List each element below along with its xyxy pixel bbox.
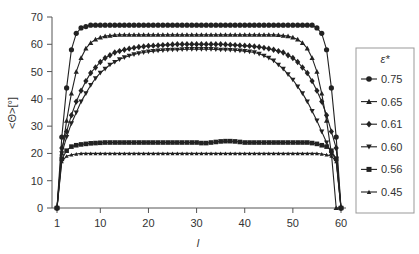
plot-area [54,23,343,212]
y-tick-label: 10 [31,175,43,187]
legend-label: 0.61 [381,118,402,130]
legend-label: 0.60 [381,141,402,153]
y-tick-label: 30 [31,120,43,132]
legend: ε*0.750.650.610.600.560.45 [356,48,414,213]
y-tick-label: 70 [31,11,43,23]
markers [54,47,343,211]
legend-label: 0.56 [381,163,402,175]
x-axis-title: l [197,237,200,249]
markers [54,41,343,211]
series-0.75 [54,23,343,211]
series-0.60 [54,47,343,211]
y-tick-label: 40 [31,93,43,105]
series-0.56 [55,139,344,210]
y-tick-label: 0 [37,202,43,214]
x-tick-label: 30 [190,217,202,229]
markers [54,32,343,210]
x-tick-label: 60 [335,217,347,229]
markers [55,151,343,209]
y-axis-title: <Θ>[°] [6,97,18,129]
x-tick-label: 10 [94,217,106,229]
series-0.61 [54,41,343,211]
markers [54,23,343,211]
series-0.45 [55,151,343,209]
legend-label: 0.45 [381,186,402,198]
legend-label: 0.75 [381,73,402,85]
legend-label: 0.65 [381,96,402,108]
legend-title: ε* [380,53,390,65]
y-tick-label: 60 [31,38,43,50]
markers [55,139,344,210]
x-tick-label: 20 [142,217,154,229]
y-tick-label: 50 [31,66,43,78]
series-0.65 [54,32,343,210]
x-tick-label: 50 [287,217,299,229]
line-chart: 0102030405060701102030405060 ε*0.750.650… [0,0,419,254]
y-tick-label: 20 [31,147,43,159]
x-tick-label: 40 [239,217,251,229]
x-tick-label: 1 [54,217,60,229]
